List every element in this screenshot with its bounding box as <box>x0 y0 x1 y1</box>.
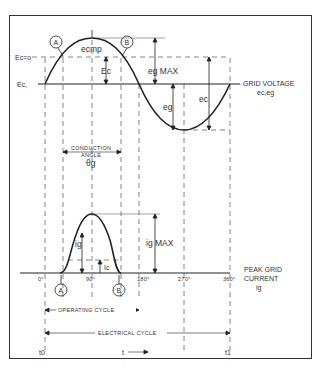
ec-label: Ec <box>101 66 112 76</box>
point-b-label-current: B <box>117 287 122 294</box>
eg-max-label: eg MAX <box>148 66 179 76</box>
operating-cycle-label: OPERATING CYCLE <box>58 307 114 313</box>
t1-label: t1 <box>225 349 231 356</box>
tick-360: 360° <box>223 276 236 282</box>
guide-lines <box>32 38 230 350</box>
point-a-label-current: A <box>59 287 64 294</box>
current-label: CURRENT <box>244 275 279 282</box>
tick-0: 0° <box>38 276 44 282</box>
point-b-label: B <box>125 39 130 46</box>
point-a-label: A <box>54 39 59 46</box>
grid-current-pulse <box>60 214 121 273</box>
ic-label: Ic <box>104 264 110 271</box>
ig-label: ig <box>75 239 82 249</box>
grid-voltage-symbols: ec,eg <box>257 89 274 97</box>
electrical-cycle-label: ELECTRICAL CYCLE <box>98 330 156 336</box>
tick-270: 270° <box>178 276 191 282</box>
t0-label: t0 <box>39 349 45 356</box>
t-label: t <box>122 349 124 356</box>
ec-neg-label: ec <box>199 94 209 104</box>
waveform-diagram: A B A B Ec=o Ec, ecmp Ec eg MAX eg ec GR… <box>0 0 323 374</box>
ec-zero-label: Ec=o <box>15 54 31 61</box>
eg-label: eg <box>163 102 173 112</box>
conduction-label: CONDUCTION <box>71 145 111 151</box>
peak-grid-label: PEAK GRID <box>244 266 282 273</box>
tick-180: 180° <box>137 276 150 282</box>
grid-voltage-title: GRID VOLTAGE <box>243 80 295 87</box>
ec-bias-label: Ec, <box>17 81 27 88</box>
ig-max-label: ig MAX <box>146 238 174 248</box>
ecmp-label: ecmp <box>81 44 102 54</box>
theta-g-label: θg <box>86 158 96 168</box>
measurement-arrows <box>45 30 230 354</box>
ig-symbol-label: ig <box>256 284 262 292</box>
tick-90: 90° <box>86 276 95 282</box>
